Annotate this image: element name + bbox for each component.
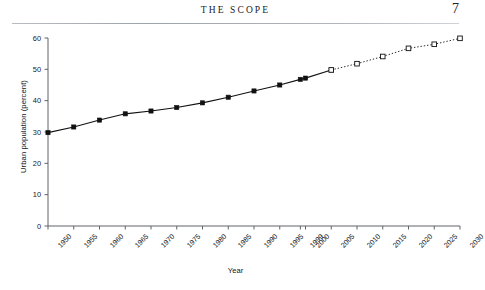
page-number: 7	[452, 1, 459, 17]
data-point-marker	[200, 101, 204, 105]
chart-axes	[45, 38, 461, 230]
data-point-marker	[46, 131, 50, 135]
y-axis-tick-label: 40	[19, 96, 41, 105]
y-axis-tick-label: 30	[19, 128, 41, 137]
data-point-marker	[406, 46, 411, 51]
data-point-marker	[97, 118, 101, 122]
y-axis-title: Urban population (percent)	[19, 57, 28, 197]
y-axis-tick-label: 10	[19, 190, 41, 199]
data-point-marker	[149, 109, 153, 113]
data-point-marker	[458, 36, 463, 41]
data-point-marker	[432, 42, 437, 47]
y-axis-tick-label: 60	[19, 34, 41, 43]
y-axis-tick-label: 50	[19, 65, 41, 74]
data-point-marker	[329, 68, 334, 73]
data-point-marker	[72, 125, 76, 129]
chart-series	[46, 36, 462, 135]
x-axis-title: Year	[0, 266, 471, 275]
running-head-title: The Scope	[0, 5, 471, 15]
y-axis-tick-label: 0	[19, 222, 41, 231]
data-point-marker	[278, 83, 282, 87]
data-point-marker	[355, 61, 360, 66]
data-point-marker	[226, 95, 230, 99]
y-axis-tick-label: 20	[19, 159, 41, 168]
data-point-marker	[175, 105, 179, 109]
data-point-marker	[380, 54, 385, 59]
data-point-marker	[298, 77, 302, 81]
chart-plot-area	[0, 26, 471, 290]
data-point-marker	[123, 112, 127, 116]
data-point-marker	[252, 89, 256, 93]
page-header: The Scope 7	[0, 0, 471, 26]
header-divider	[12, 23, 459, 24]
data-point-marker	[303, 76, 307, 80]
urban-population-line-chart: Urban population (percent) Year 01020304…	[0, 26, 471, 290]
